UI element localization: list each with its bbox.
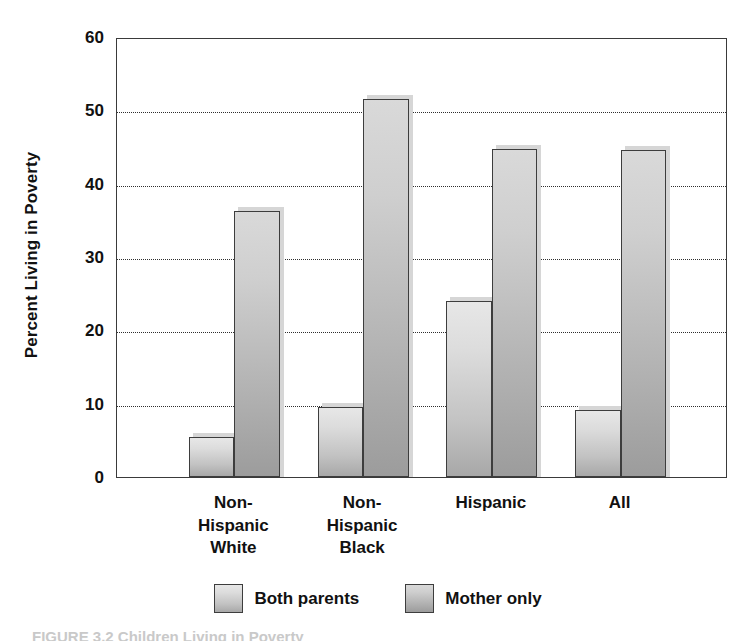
y-tick-label-0: 0 [62,469,104,486]
legend-swatch-both-parents [214,584,243,613]
figure-caption: FIGURE 3.2 Children Living in Poverty [32,628,304,641]
legend-swatch-mother-only [405,584,434,613]
y-tick-label-30: 30 [62,249,104,266]
bar-all-both-parents [575,410,621,477]
bar-non-hispanic-white-both-parents [189,437,235,477]
poverty-bar-chart-figure: Percent Living in Poverty 0102030405060 … [0,0,756,641]
legend-item-mother-only: Mother only [405,584,541,613]
legend-item-both-parents: Both parents [214,584,359,613]
chart-legend: Both parentsMother only [0,584,756,613]
plot-area [116,38,727,478]
y-axis-title: Percent Living in Poverty [22,105,42,405]
bar-non-hispanic-white-mother-only [234,211,280,477]
y-tick-label-40: 40 [62,176,104,193]
y-tick-label-20: 20 [62,322,104,339]
y-tick-label-10: 10 [62,396,104,413]
bar-non-hispanic-black-mother-only [363,99,409,477]
legend-label-both-parents: Both parents [254,589,359,609]
bar-all-mother-only [621,150,667,477]
bar-non-hispanic-black-both-parents [318,407,364,477]
legend-label-mother-only: Mother only [445,589,541,609]
gridline-50 [117,112,726,113]
bar-hispanic-both-parents [446,301,492,477]
bar-hispanic-mother-only [492,149,538,477]
y-tick-label-60: 60 [62,29,104,46]
y-tick-label-50: 50 [62,102,104,119]
x-category-label-all: All [540,492,700,515]
